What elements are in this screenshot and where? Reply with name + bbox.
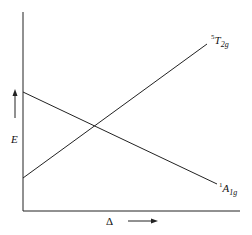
label-5T2g: 5T2g bbox=[211, 34, 229, 49]
label-5T2g-subscript: 2g bbox=[221, 40, 229, 49]
line-5T2g bbox=[23, 44, 207, 178]
line-1A1g bbox=[23, 92, 217, 184]
label-1A1g: 1A1g bbox=[219, 182, 237, 197]
y-axis-label: E bbox=[11, 134, 18, 145]
y-arrow-icon bbox=[13, 89, 18, 118]
x-axis-label: Δ bbox=[106, 216, 113, 227]
x-arrow-icon bbox=[128, 219, 158, 224]
label-1A1g-subscript: 1g bbox=[229, 188, 237, 197]
